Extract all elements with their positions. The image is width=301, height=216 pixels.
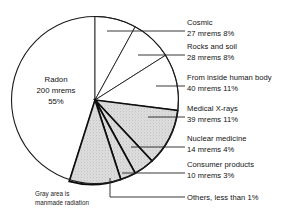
callout-others-name: Others, less than 1% — [187, 193, 259, 202]
callout-medical-xrays-value: 39 mrems 11% — [187, 115, 238, 124]
callout-nuclear-medicine-value: 14 mrems 4% — [187, 145, 235, 154]
callout-cosmic-value: 27 mrems 8% — [187, 29, 235, 38]
callout-consumer-products-name: Consumer products — [187, 160, 254, 169]
callout-cosmic: Cosmic 27 mrems 8% — [187, 18, 235, 38]
callout-inside-human-body-name: From inside human body — [187, 73, 272, 82]
pie-chart-figure: Radon 200 mrems 55% Cosmic 27 mrems 8% R… — [0, 0, 301, 216]
callout-rocks-and-soil-value: 28 mrems 8% — [187, 53, 235, 62]
radiation-sources-pie-chart: Radon 200 mrems 55% Cosmic 27 mrems 8% R… — [0, 0, 301, 216]
callout-cosmic-name: Cosmic — [187, 18, 213, 27]
gray-area-note: Gray area is manmade radiation — [35, 190, 89, 206]
callout-nuclear-medicine: Nuclear medicine 14 mrems 4% — [187, 134, 246, 154]
callout-medical-xrays-name: Medical X-rays — [187, 104, 238, 113]
gray-area-note-line2: manmade radiation — [35, 199, 89, 206]
callout-inside-human-body-value: 40 mrems 11% — [187, 84, 238, 93]
callout-inside-human-body: From inside human body 40 mrems 11% — [187, 73, 272, 93]
radon-label-percent: 55% — [48, 97, 64, 106]
radon-label-value: 200 mrems — [37, 86, 76, 95]
callout-nuclear-medicine-name: Nuclear medicine — [187, 134, 246, 143]
radon-label-name: Radon — [45, 75, 68, 84]
callout-medical-xrays: Medical X-rays 39 mrems 11% — [187, 104, 238, 124]
callout-rocks-and-soil: Rocks and soil 28 mrems 8% — [187, 42, 237, 62]
callout-others: Others, less than 1% — [187, 193, 259, 202]
callout-consumer-products-value: 10 mrems 3% — [187, 171, 235, 180]
callout-rocks-and-soil-name: Rocks and soil — [187, 42, 237, 51]
leader-others — [110, 178, 185, 197]
gray-area-note-line1: Gray area is — [35, 190, 69, 198]
radon-center-label: Radon 200 mrems 55% — [37, 75, 76, 106]
callout-consumer-products: Consumer products 10 mrems 3% — [187, 160, 254, 180]
